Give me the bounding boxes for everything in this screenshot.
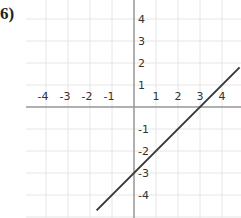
y-tick-label: 4 xyxy=(138,13,145,26)
x-tick-label: -4 xyxy=(38,90,49,103)
y-tick-label: 2 xyxy=(138,57,145,70)
x-tick-label: -1 xyxy=(104,90,115,103)
x-tick-label: -2 xyxy=(82,90,93,103)
x-tick-label: 1 xyxy=(153,90,160,103)
y-tick-label: -2 xyxy=(138,145,149,158)
y-tick-label: 1 xyxy=(138,79,145,92)
y-tick-label: 3 xyxy=(138,35,145,48)
plotted-line xyxy=(97,67,240,210)
x-tick-label: 4 xyxy=(219,90,226,103)
y-tick-label: -1 xyxy=(138,123,149,136)
x-tick-label: 3 xyxy=(197,90,204,103)
function-line xyxy=(97,67,240,210)
axes xyxy=(26,0,241,218)
y-tick-label: -4 xyxy=(138,189,149,202)
x-tick-label: 2 xyxy=(175,90,182,103)
coordinate-plane: -4-3-2-112344321-1-2-3-4 xyxy=(0,0,241,218)
y-tick-label: -3 xyxy=(138,167,149,180)
x-tick-label: -3 xyxy=(60,90,71,103)
